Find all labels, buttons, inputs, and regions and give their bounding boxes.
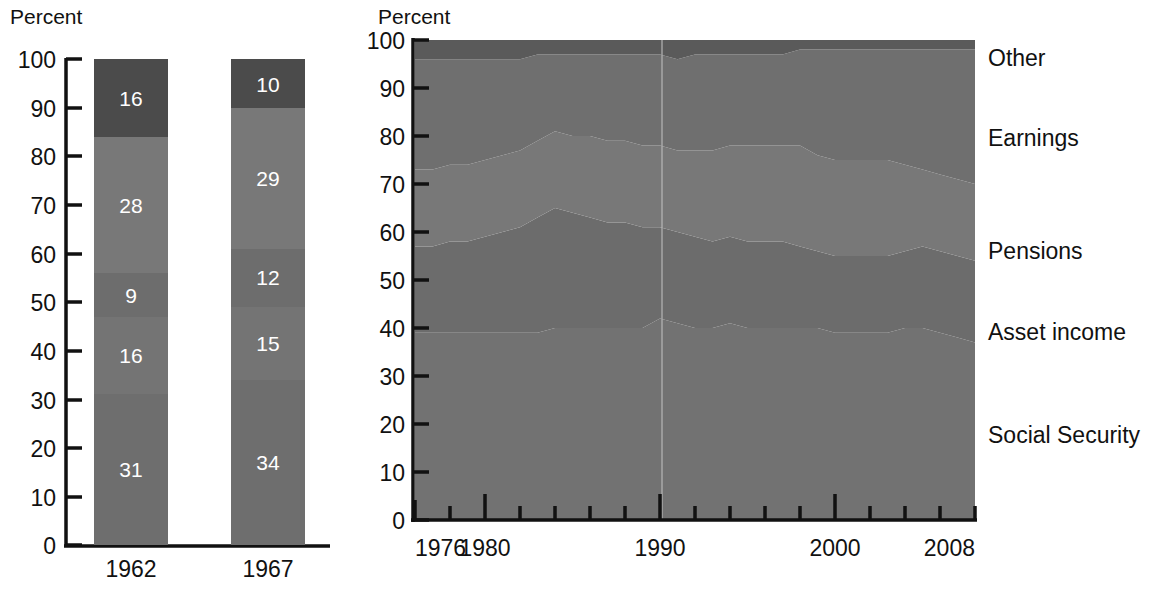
area-y-tick-label: 30 xyxy=(379,364,405,390)
bar-stack-1962: 31 16 9 28 16 xyxy=(94,59,168,545)
area-band-social-security xyxy=(415,318,975,520)
bar-value-label: 16 xyxy=(119,344,142,367)
bar-value-label: 10 xyxy=(256,73,279,96)
area-x-tick-label: 1980 xyxy=(459,535,510,561)
area-x-tick-label: 1990 xyxy=(634,535,685,561)
area-y-tick-label: 90 xyxy=(379,76,405,102)
area-y-tick-label: 40 xyxy=(379,316,405,342)
bar-y-tick-label: 0 xyxy=(43,533,56,559)
bar-y-tick-label: 20 xyxy=(30,436,56,462)
bar-y-ticks xyxy=(66,59,82,545)
bar-y-tick-label: 80 xyxy=(30,144,56,170)
area-panel: Percent xyxy=(367,5,1141,561)
bar-y-tick-label: 70 xyxy=(30,193,56,219)
bar-y-tick-label: 100 xyxy=(18,47,56,73)
bar-y-tick-label: 60 xyxy=(30,242,56,268)
figure-canvas: Percent 100 90 80 70 60 50 40 xyxy=(0,0,1155,597)
bar-y-tick-label: 30 xyxy=(30,388,56,414)
bar-value-label: 15 xyxy=(256,332,279,355)
area-x-tick-label: 2000 xyxy=(809,535,860,561)
area-y-tick-label: 100 xyxy=(367,28,405,54)
bar-y-tick-label: 40 xyxy=(30,339,56,365)
bar-value-label: 31 xyxy=(119,458,142,481)
two-panel-chart: Percent 100 90 80 70 60 50 40 xyxy=(0,0,1155,597)
area-axis-title: Percent xyxy=(378,5,451,28)
area-x-tick-label: 2008 xyxy=(924,535,975,561)
bar-panel: Percent 100 90 80 70 60 50 40 xyxy=(10,5,330,582)
bar-axis-title: Percent xyxy=(10,5,83,28)
area-y-tick-labels: 100 90 80 70 60 50 40 30 20 10 0 xyxy=(367,28,405,534)
area-y-tick-label: 60 xyxy=(379,220,405,246)
area-y-tick-label: 10 xyxy=(379,460,405,486)
bar-stack-1967: 34 15 12 29 10 xyxy=(231,59,305,545)
bar-category-label-1962: 1962 xyxy=(105,556,156,582)
area-x-tick-labels: 1976 1980 1990 2000 2008 xyxy=(415,535,975,561)
bar-y-tick-labels: 100 90 80 70 60 50 40 30 20 10 0 xyxy=(18,47,56,559)
series-label-other: Other xyxy=(988,45,1046,71)
bar-value-label: 29 xyxy=(256,167,279,190)
area-series-labels: Other Earnings Pensions Asset income Soc… xyxy=(988,45,1141,448)
series-label-social-security: Social Security xyxy=(988,422,1141,448)
bar-y-tick-label: 90 xyxy=(30,96,56,122)
area-stack xyxy=(415,40,975,520)
area-y-tick-label: 20 xyxy=(379,412,405,438)
series-label-asset-income: Asset income xyxy=(988,319,1126,345)
area-y-tick-label: 50 xyxy=(379,268,405,294)
area-y-tick-label: 80 xyxy=(379,124,405,150)
series-label-earnings: Earnings xyxy=(988,125,1079,151)
series-label-pensions: Pensions xyxy=(988,238,1083,264)
bar-value-label: 9 xyxy=(125,284,137,307)
bar-value-label: 28 xyxy=(119,194,142,217)
area-y-tick-label: 0 xyxy=(392,508,405,534)
bar-value-label: 34 xyxy=(256,451,280,474)
area-y-tick-label: 70 xyxy=(379,172,405,198)
bar-y-tick-label: 10 xyxy=(30,485,56,511)
bar-y-tick-label: 50 xyxy=(30,290,56,316)
bar-value-label: 16 xyxy=(119,87,142,110)
bar-category-label-1967: 1967 xyxy=(242,556,293,582)
bar-value-label: 12 xyxy=(256,266,279,289)
